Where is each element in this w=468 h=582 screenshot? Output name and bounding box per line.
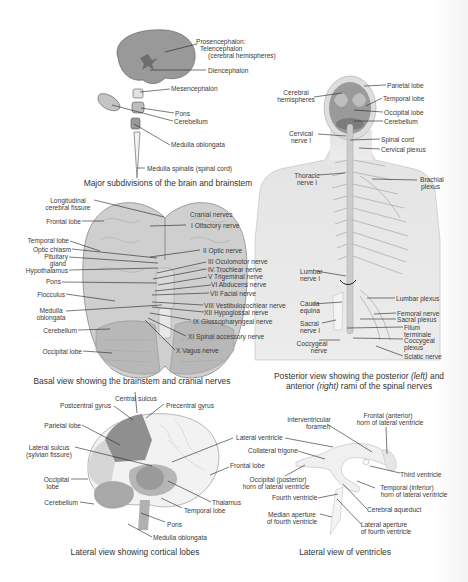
label-occipital-lobe: Occipital lobe: [384, 109, 424, 116]
label-cerebral-aqueduct: Cerebral aqueduct: [367, 506, 421, 513]
label-glossopharyngeal-nerve: IX Glossopharyngeal nerve: [193, 318, 273, 325]
label-sciatic-nerve: Sciatic nerve: [404, 353, 442, 360]
label-diencephalon: Diencephalon: [208, 67, 248, 74]
caption-posterior-text-f: rami of the spinal nerves: [339, 381, 433, 391]
label-cerebral-hemispheres-2: hemispheres: [276, 96, 316, 103]
label-brachial-plexus-2: plexus: [421, 183, 440, 190]
label-medulla-oblongata: Medulla oblongata: [171, 141, 225, 148]
label-lateral-aperture-2: of fourth ventricle: [356, 528, 416, 535]
anatomy-figure-page: Prosencephalon: Telencephalon (cerebral …: [0, 0, 468, 582]
label-longitudinal-fissure-2: cerebral fissure: [40, 204, 96, 211]
label-parietal-lobe: Parietal lobe: [20, 422, 81, 429]
label-facial-nerve: VII Facial nerve: [210, 290, 256, 297]
caption-ventricles: Lateral view of ventricles: [280, 547, 410, 557]
label-coccygeal-nerve-2: nerve: [304, 347, 334, 354]
label-parietal-lobe: Parietal lobe: [387, 82, 424, 89]
label-lumbar-plexus: Lumbar plexus: [396, 295, 439, 302]
label-temporal-lobe: Temporal lobe: [10, 237, 69, 244]
label-occipital-lobe: Occipital lobe: [10, 348, 82, 355]
label-lateral-ventricle: Lateral ventricle: [236, 434, 283, 441]
caption-posterior-text-d: anterior: [286, 381, 317, 391]
caption-posterior-line-1: Posterior view showing the posterior (le…: [250, 371, 468, 381]
subdivisions-illustration: [98, 30, 195, 178]
label-olfactory-nerve: I Olfactory nerve: [191, 222, 239, 229]
label-cerebellum: Cerebellum: [20, 499, 78, 506]
caption-posterior-italic-right: (right): [317, 381, 339, 391]
label-hypoglossal-nerve: XII Hypoglossal nerve: [204, 309, 268, 316]
label-thoracic-nerve-2: nerve I: [294, 179, 320, 186]
label-medulla-spinalis: Medulla spinalis (spinal cord): [147, 165, 232, 172]
label-medulla-2: oblongata: [30, 314, 72, 321]
caption-subdivisions: Major subdivisions of the brain and brai…: [80, 178, 256, 188]
label-cerebral-hemispheres: (cerebral hemispheres): [208, 52, 276, 59]
label-flocculus: Flocculus: [10, 291, 65, 298]
label-median-aperture-2: of fourth ventricle: [262, 518, 322, 525]
label-pons: Pons: [167, 521, 182, 528]
label-pons: Pons: [10, 278, 61, 285]
label-spinal-cord: Spinal cord: [381, 136, 414, 143]
label-temporal-horn-2: horn of lateral ventricle: [374, 491, 454, 498]
caption-posterior-text-c: and: [428, 371, 444, 381]
label-coccygeal-plexus-2: plexus: [404, 344, 423, 351]
label-frontal-lobe: Frontal lobe: [230, 462, 265, 469]
label-pons: Pons: [175, 110, 190, 117]
label-occipital-horn-2: horn of lateral ventricle: [236, 483, 316, 490]
label-thalamus: Thalamus: [212, 499, 241, 506]
label-trigeminal-nerve: V Trigeminal nerve: [208, 273, 263, 280]
caption-posterior-italic-left: (left): [411, 371, 428, 381]
label-hypothalamus: Hypothalamus: [10, 267, 68, 274]
label-cerebellum: Cerebellum: [384, 118, 418, 125]
label-temporal-lobe: Temporal lobe: [184, 507, 225, 514]
caption-posterior-text-a: Posterior view showing the posterior: [274, 371, 411, 381]
label-lumbar-nerve-2: nerve I: [300, 275, 320, 282]
caption-posterior-line-2: anterior (right) rami of the spinal nerv…: [250, 381, 468, 391]
label-interventricular-foramen-2: foramen: [290, 423, 346, 430]
caption-lateral: Lateral view showing cortical lobes: [60, 547, 210, 557]
label-temporal-lobe: Temporal lobe: [383, 95, 424, 102]
label-cauda-equina-2: equina: [300, 307, 320, 314]
label-fourth-ventricle: Fourth ventricle: [272, 494, 317, 501]
label-precentral-gyrus: Precentral gyrus: [166, 402, 214, 409]
label-cranial-nerves: Cranial nerves: [190, 211, 233, 218]
label-cervical-plexus: Cervical plexus: [381, 146, 426, 153]
label-sacral-nerve-2: nerve I: [300, 327, 320, 334]
label-lateral-sulcus-2: (sylvian fissure): [24, 451, 74, 458]
label-frontal-lobe: Frontal lobe: [20, 218, 81, 225]
label-cerebellum: Cerebellum: [10, 327, 77, 334]
label-medulla-oblongata: Medulla oblongata: [153, 534, 207, 541]
label-optic-nerve: II Optic nerve: [203, 247, 242, 254]
label-collateral-trigone: Collateral trigone: [248, 447, 298, 454]
label-occipital-lobe-2: lobe: [30, 483, 59, 490]
label-cerebellum: Cerebellum: [174, 118, 208, 125]
label-cervical-nerve-2: nerve I: [284, 137, 318, 144]
caption-basal: Basal view showing the brainstem and cra…: [30, 376, 234, 386]
label-oculomotor-nerve: III Oculomotor nerve: [208, 258, 268, 265]
label-vagus-nerve: X Vagus nerve: [176, 347, 219, 354]
label-spinal-accessory-nerve: XI Spinal accessory nerve: [188, 333, 264, 340]
label-mesencephalon: Mesencephalon: [171, 85, 218, 92]
label-central-sulcus: Central sulcus: [115, 395, 157, 402]
label-abducens-nerve: VI Abducens nerve: [211, 281, 266, 288]
label-third-ventricle: Third ventricle: [400, 471, 441, 478]
label-frontal-horn-2: horn of lateral ventricle: [350, 419, 430, 426]
label-postcentral-gyrus: Postcentral gyrus: [60, 402, 111, 409]
label-sacral-plexus: Sacral plexus: [397, 316, 437, 323]
